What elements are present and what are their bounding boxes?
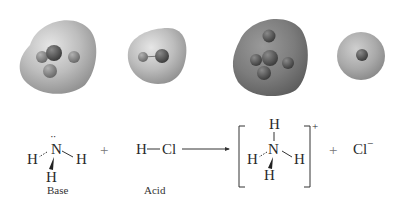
ammonia-h-bottom: H xyxy=(46,170,57,185)
chloride-charge: − xyxy=(367,138,373,149)
ammonium-nitrogen: N xyxy=(268,142,279,157)
hcl-chlorine: Cl xyxy=(162,142,176,157)
potential-map-models xyxy=(0,0,400,202)
ammonia-nitrogen: N xyxy=(51,142,62,157)
ammonium-h-top: H xyxy=(269,117,280,132)
ammonium-h-left: H xyxy=(247,152,258,167)
lone-pair-dots: ·· xyxy=(50,131,55,142)
ammonium-model xyxy=(233,19,308,96)
chloride-model xyxy=(337,32,385,80)
ammonia-model xyxy=(20,20,97,94)
hydrogen-chloride-model xyxy=(128,28,187,84)
plus-sign-1: + xyxy=(100,143,108,158)
plus-sign-2: + xyxy=(329,143,337,158)
ammonia-h-left: H xyxy=(27,152,38,167)
ammonium-h-bottom: H xyxy=(264,168,275,183)
base-label: Base xyxy=(47,185,68,196)
ammonium-charge: + xyxy=(312,121,318,132)
ammonia-h-right: H xyxy=(76,152,87,167)
ammonium-h-right: H xyxy=(294,152,305,167)
chloride-symbol: Cl xyxy=(353,142,367,157)
acid-label: Acid xyxy=(144,185,165,196)
hcl-hydrogen: H xyxy=(136,142,147,157)
